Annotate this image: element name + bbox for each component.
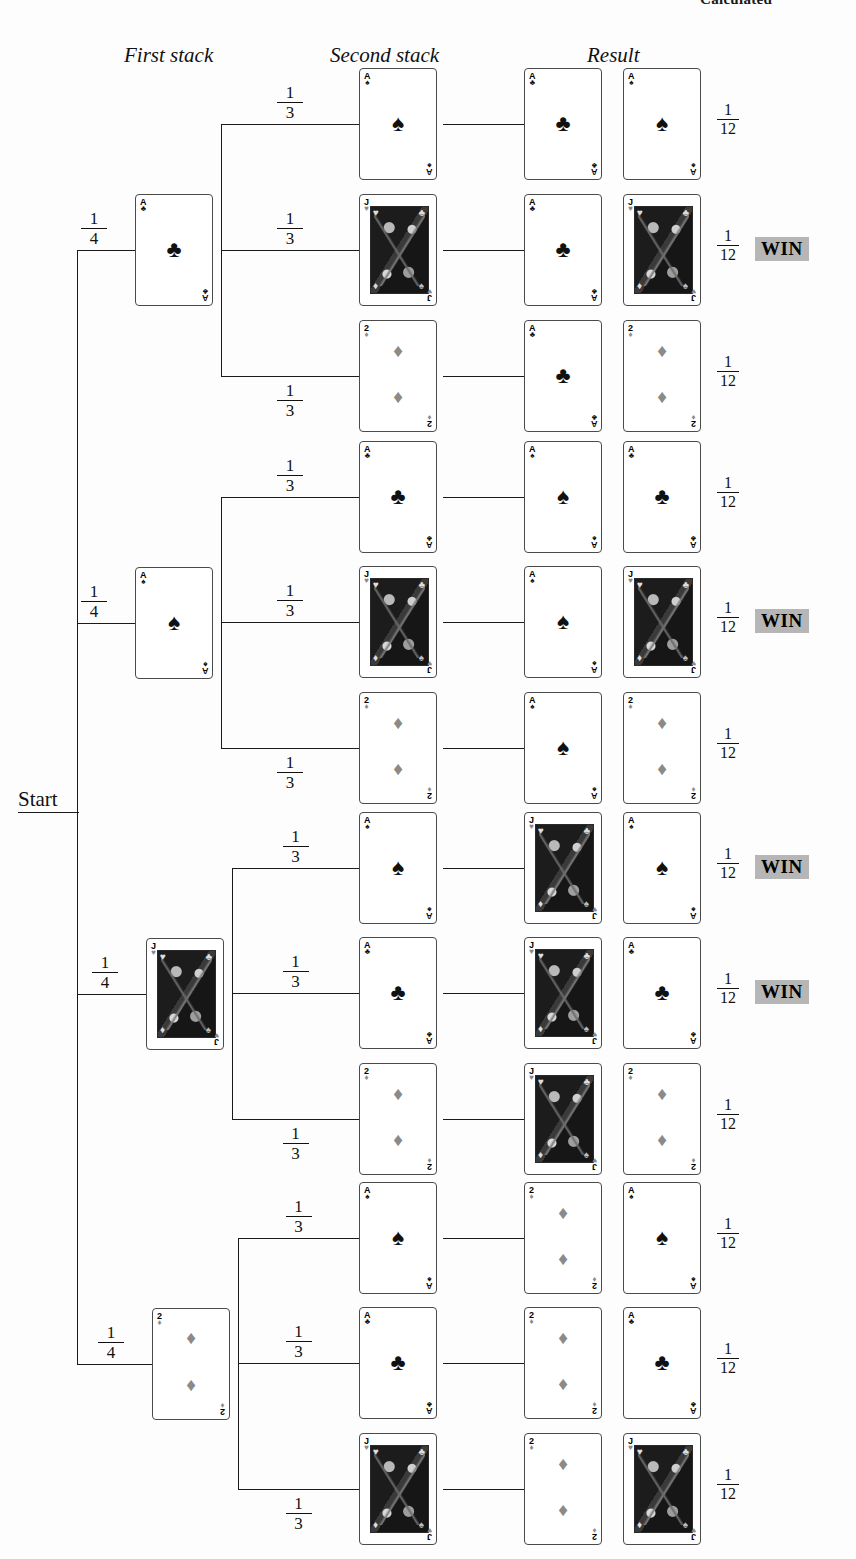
card-suit-icon: ♥ — [628, 1444, 633, 1451]
card-corner-bottom-right: 2♦ — [691, 1156, 696, 1171]
result-card-right-4-3: J♥♥♣♦♠J♥ — [623, 1433, 701, 1545]
card-corner-top-left: A♠ — [628, 816, 635, 831]
fraction-denominator: 12 — [713, 618, 743, 635]
card-corner-bottom-right: A♣ — [690, 534, 697, 549]
card-suit-icon: ♥ — [151, 949, 156, 956]
card-suit-icon: ♣ — [591, 161, 598, 168]
card-suit-icon: ♦ — [628, 1074, 633, 1081]
card-corner-bottom-right: A♠ — [426, 905, 433, 920]
second-stack-card-2-2: J♥♥♣♦♠J♥ — [359, 566, 437, 678]
card-suit-icon: ♦ — [529, 1193, 534, 1200]
fraction-denominator: 12 — [713, 1115, 743, 1132]
card-pip-upper: ♦ — [624, 1084, 700, 1103]
card-suit-icon: ♦ — [592, 1275, 597, 1282]
second-stack-connector-3-2 — [232, 993, 359, 994]
card-corner-top-left: J♥ — [151, 942, 156, 957]
branch-probability-1: 14 — [77, 210, 111, 247]
card-suit-icon: ♣ — [426, 1030, 433, 1037]
card-pip-lower: ♦ — [360, 759, 436, 778]
card-suit-icon: ♣ — [529, 331, 536, 338]
face-card-pip-4: ♠ — [584, 1150, 589, 1160]
card-suit-icon: ♥ — [529, 948, 534, 955]
second-stack-connector-2-1 — [221, 497, 359, 498]
card-corner-top-left: A♣ — [529, 198, 536, 213]
card-corner-top-left: 2♦ — [157, 1312, 162, 1327]
fraction-denominator: 3 — [273, 773, 307, 791]
face-card-pip-4: ♠ — [683, 653, 688, 663]
card-corner-top-left: A♠ — [364, 816, 371, 831]
face-card-pip-4: ♠ — [683, 281, 688, 291]
face-card-pip-1: ♥ — [373, 580, 379, 590]
face-card-pip-3: ♦ — [637, 653, 642, 663]
second-probability-1-1: 13 — [273, 84, 307, 121]
face-card-pip-3: ♦ — [373, 653, 378, 663]
first-stack-card-1: A♣♣A♣ — [135, 194, 213, 306]
card-corner-bottom-right: A♣ — [591, 161, 598, 176]
fraction-numerator: 1 — [713, 228, 743, 245]
card-suit-icon: ♠ — [426, 1275, 433, 1282]
result-connector-2-2 — [443, 622, 524, 623]
card-corner-top-left: J♥ — [364, 570, 369, 585]
branch-probability-3: 14 — [88, 954, 122, 991]
column-heading-second-stack: Second stack — [330, 43, 439, 68]
fraction-denominator: 12 — [713, 1485, 743, 1502]
fraction-denominator: 3 — [273, 401, 307, 419]
card-corner-bottom-right: A♣ — [426, 1400, 433, 1415]
result-card-left-1-2: A♣♣A♣ — [524, 194, 602, 306]
second-stack-card-2-3: 2♦♦♦2♦ — [359, 692, 437, 804]
card-pip-lower: ♦ — [624, 1130, 700, 1149]
card-suit-icon: ♥ — [592, 1156, 597, 1163]
result-card-right-1-1: A♠♠A♠ — [623, 68, 701, 180]
card-pip-upper: ♦ — [360, 1084, 436, 1103]
win-badge-3-2: WIN — [755, 980, 809, 1004]
card-suit-icon: ♣ — [591, 287, 598, 294]
card-corner-bottom-right: 2♦ — [427, 785, 432, 800]
card-pip-upper: ♦ — [624, 341, 700, 360]
card-pip-lower: ♦ — [360, 387, 436, 406]
face-card-pip-2: ♣ — [583, 826, 590, 836]
fraction-numerator: 1 — [713, 1097, 743, 1114]
card-pip-lower: ♦ — [525, 1374, 601, 1393]
fraction-numerator: 1 — [713, 1216, 743, 1233]
fraction-numerator: 1 — [282, 1198, 316, 1216]
second-probability-4-3: 13 — [282, 1495, 316, 1532]
column-heading-first-stack: First stack — [124, 43, 213, 68]
card-corner-bottom-right: J♥ — [592, 1030, 597, 1045]
outcome-probability-1-2: 112 — [713, 228, 743, 263]
card-suit-icon: ♦ — [427, 1156, 432, 1163]
card-suit-icon: ♥ — [628, 205, 633, 212]
card-suit-icon: ♣ — [202, 287, 209, 294]
card-corner-bottom-right: J♥ — [691, 659, 696, 674]
fraction-numerator: 1 — [77, 583, 111, 601]
card-suit-icon: ♥ — [691, 1526, 696, 1533]
card-suit-icon: ♣ — [591, 413, 598, 420]
result-card-left-4-3: 2♦♦♦2♦ — [524, 1433, 602, 1545]
card-corner-top-left: A♠ — [628, 72, 635, 87]
fraction-denominator: 12 — [713, 989, 743, 1006]
second-probability-1-2: 13 — [273, 210, 307, 247]
second-stack-connector-4-3 — [238, 1489, 359, 1490]
card-pip-center: ♠ — [360, 856, 436, 879]
card-pip-center: ♠ — [360, 112, 436, 135]
first-stack-connector-1 — [77, 250, 135, 251]
card-corner-top-left: J♥ — [628, 570, 633, 585]
fraction-denominator: 4 — [88, 973, 122, 991]
result-connector-2-3 — [443, 748, 524, 749]
fraction-numerator: 1 — [282, 1495, 316, 1513]
result-card-right-1-2: J♥♥♣♦♠J♥ — [623, 194, 701, 306]
card-pip-upper: ♦ — [360, 341, 436, 360]
result-card-left-2-3: A♠♠A♠ — [524, 692, 602, 804]
card-corner-bottom-right: A♣ — [202, 287, 209, 302]
card-suit-icon: ♠ — [426, 161, 433, 168]
card-suit-icon: ♦ — [592, 1526, 597, 1533]
fraction-numerator: 1 — [273, 754, 307, 772]
card-suit-icon: ♥ — [214, 1031, 219, 1038]
fraction-numerator: 1 — [713, 354, 743, 371]
second-stack-card-4-1: A♠♠A♠ — [359, 1182, 437, 1294]
card-pip-center: ♣ — [360, 981, 436, 1004]
face-card-pip-2: ♣ — [418, 208, 425, 218]
card-corner-bottom-right: A♠ — [426, 161, 433, 176]
fraction-denominator: 3 — [273, 476, 307, 494]
fraction-numerator: 1 — [713, 726, 743, 743]
card-corner-top-left: J♥ — [529, 816, 534, 831]
